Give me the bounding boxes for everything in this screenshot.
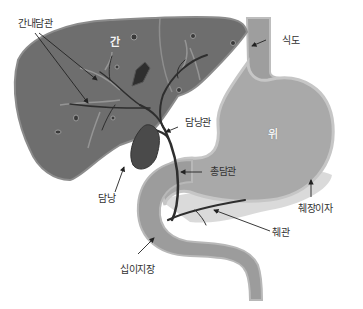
digestive-anatomy-diagram xyxy=(0,0,363,309)
label-intrahepatic-ducts: 간내담관 xyxy=(18,18,52,30)
label-gallbladder: 담낭 xyxy=(98,193,115,205)
label-common-bile-duct: 총담관 xyxy=(210,166,236,178)
label-stomach: 위 xyxy=(268,129,278,141)
label-esophagus: 식도 xyxy=(282,35,299,47)
label-liver: 간 xyxy=(110,37,120,49)
label-pancreas: 췌장이자 xyxy=(298,203,332,215)
label-pancreatic-duct: 췌관 xyxy=(272,227,289,239)
label-duodenum: 십이지장 xyxy=(120,264,154,276)
label-cystic-duct: 담낭관 xyxy=(185,117,211,129)
